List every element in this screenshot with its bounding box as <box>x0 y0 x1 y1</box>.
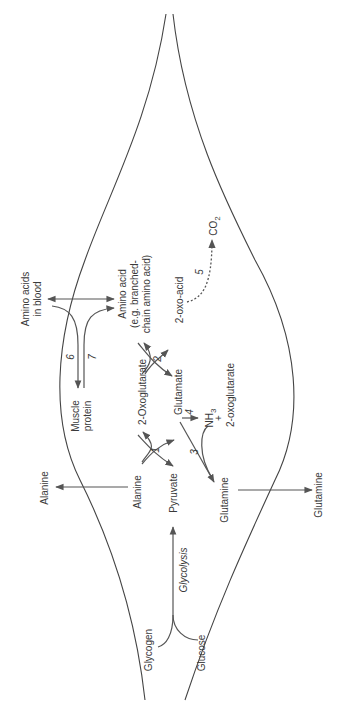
label-glutamine-outer: Glutamine <box>313 472 324 518</box>
reaction-number-3: 3 <box>189 449 200 455</box>
label-2-oxoglutarate: 2-Oxoglutarate <box>137 358 148 425</box>
label-glutamate: Glutamate <box>173 368 184 415</box>
reaction-number-2: 2 <box>152 356 163 363</box>
label-glutamine-inner: Glutamine <box>219 477 230 523</box>
reaction-number-6: 6 <box>65 354 76 360</box>
label-pyruvate: Pyruvate <box>168 473 179 513</box>
muscle-metabolism-diagram: Amino acids in blood Muscle protein Amin… <box>0 0 339 716</box>
label-muscle-protein-2: protein <box>82 401 93 432</box>
label-alanine-outer: Alanine <box>39 471 50 505</box>
label-amino-acids-blood-2: in blood <box>32 281 43 316</box>
label-plus: + <box>213 415 224 421</box>
reaction-number-7: 7 <box>87 354 98 360</box>
reaction-number-1: 1 <box>150 447 161 453</box>
label-2-oxoglutarate-small: 2-oxoglutarate <box>225 363 236 427</box>
label-muscle-protein-1: Muscle <box>70 400 81 432</box>
glycogen-branch <box>158 615 173 647</box>
label-alanine-inner: Alanine <box>132 475 143 509</box>
reaction-7-arrow <box>84 308 114 388</box>
label-amino-acid-2: (e.g. branched- <box>129 260 140 328</box>
label-amino-acid-1: Amino acid <box>117 269 128 318</box>
muscle-outline-right <box>173 14 294 700</box>
label-amino-acid-3: chain amino acid) <box>141 255 152 333</box>
label-glycogen: Glycogen <box>143 629 154 671</box>
reaction-number-4: 4 <box>184 409 195 415</box>
glucose-branch <box>173 615 198 640</box>
label-oxo-acid: 2-oxo-acid <box>174 277 185 324</box>
label-amino-acids-blood-1: Amino acids <box>20 272 31 326</box>
reaction-6-arrow <box>52 306 78 388</box>
label-glycolysis: Glycolysis <box>178 547 189 592</box>
reaction-number-5: 5 <box>194 269 205 275</box>
label-glucose: Glucose <box>196 634 207 671</box>
label-co2: CO2 <box>208 216 222 236</box>
